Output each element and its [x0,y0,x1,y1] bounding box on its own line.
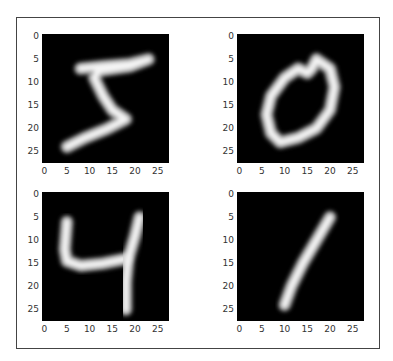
y-tick-label: 5 [214,212,234,222]
x-tick-label: 20 [320,324,340,334]
x-tick-label: 20 [125,166,145,176]
x-tick-label: 0 [229,324,249,334]
x-tick-label: 10 [80,324,100,334]
y-tick-label: 20 [19,123,39,133]
x-tick-label: 5 [252,324,272,334]
x-tick-label: 0 [34,166,54,176]
x-tick-label: 25 [343,166,363,176]
y-tick-label: 25 [214,304,234,314]
y-tick-label: 10 [19,235,39,245]
x-tick-label: 10 [80,166,100,176]
x-tick-label: 25 [343,324,363,334]
x-tick-label: 15 [297,166,317,176]
y-tick-label: 20 [214,281,234,291]
y-tick-label: 25 [19,304,39,314]
y-tick-label: 15 [214,258,234,268]
y-tick-label: 0 [19,31,39,41]
y-tick-label: 25 [19,146,39,156]
y-tick-label: 5 [19,54,39,64]
y-tick-label: 0 [19,189,39,199]
x-tick-label: 15 [102,324,122,334]
y-tick-label: 10 [19,77,39,87]
x-tick-label: 20 [320,166,340,176]
x-tick-label: 20 [125,324,145,334]
y-tick-label: 0 [214,31,234,41]
digit-image-bottom-left [42,192,169,321]
digit-stroke [285,217,330,305]
y-tick-label: 15 [214,100,234,110]
x-tick-label: 10 [275,324,295,334]
x-tick-label: 0 [229,166,249,176]
x-tick-label: 5 [57,324,77,334]
digit-image-top-right [237,34,364,163]
y-tick-label: 15 [19,100,39,110]
x-tick-label: 5 [57,166,77,176]
x-tick-label: 15 [102,166,122,176]
x-tick-label: 0 [34,324,54,334]
y-tick-label: 5 [214,54,234,64]
digit-image-top-left [42,34,169,163]
y-tick-label: 10 [214,77,234,87]
y-tick-label: 15 [19,258,39,268]
x-tick-label: 15 [297,324,317,334]
y-tick-label: 10 [214,235,234,245]
y-tick-label: 20 [214,123,234,133]
x-tick-label: 25 [148,324,168,334]
digit-image-bottom-right [237,192,364,321]
x-tick-label: 25 [148,166,168,176]
y-tick-label: 5 [19,212,39,222]
x-tick-label: 5 [252,166,272,176]
x-tick-label: 10 [275,166,295,176]
y-tick-label: 0 [214,189,234,199]
y-tick-label: 25 [214,146,234,156]
y-tick-label: 20 [19,281,39,291]
